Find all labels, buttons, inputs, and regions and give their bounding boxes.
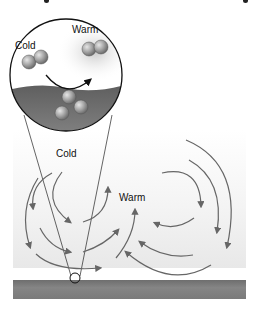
magnifier-line-left — [24, 115, 71, 276]
main-cold-label: Cold — [56, 149, 77, 159]
magnified-warm-label: Warm — [72, 25, 98, 35]
convection-diagram: Cold Warm Cold Warm — [0, 0, 253, 314]
main-warm-label: Warm — [119, 193, 145, 203]
magnify-point — [70, 273, 80, 283]
diagram-graphics — [0, 0, 253, 314]
convection-cell-left — [26, 172, 136, 269]
convection-cell-right — [126, 140, 231, 275]
magnified-cold-label: Cold — [15, 41, 36, 51]
magnified-view — [8, 18, 133, 140]
